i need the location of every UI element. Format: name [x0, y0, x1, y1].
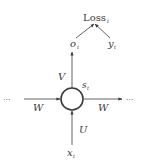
hidden-state-subscript: t — [87, 85, 90, 91]
input-node: x t — [67, 147, 76, 159]
weight-v-label: V — [58, 71, 67, 82]
target-node: y t — [107, 38, 117, 50]
rnn-diagram: Loss t o t y t V s t ··· W W ··· U x t — [0, 0, 146, 167]
output-label: o — [70, 38, 76, 49]
loss-subscript: t — [107, 18, 110, 24]
hidden-state-circle — [61, 88, 83, 110]
prev-ellipsis: ··· — [3, 95, 11, 104]
next-ellipsis: ··· — [126, 95, 134, 104]
output-subscript: t — [77, 44, 80, 50]
target-label: y — [107, 38, 114, 49]
output-to-loss-arrow — [76, 24, 94, 38]
loss-label: Loss — [83, 12, 106, 23]
hidden-state-label-group: s t — [82, 80, 90, 91]
target-subscript: t — [114, 44, 117, 50]
input-subscript: t — [73, 153, 76, 159]
loss-node: Loss t — [83, 12, 110, 24]
target-to-loss-arrow — [95, 24, 110, 38]
weight-w-left-label: W — [33, 102, 44, 113]
output-node: o t — [70, 38, 80, 50]
weight-w-right-label: W — [98, 102, 109, 113]
weight-u-label: U — [79, 124, 88, 135]
